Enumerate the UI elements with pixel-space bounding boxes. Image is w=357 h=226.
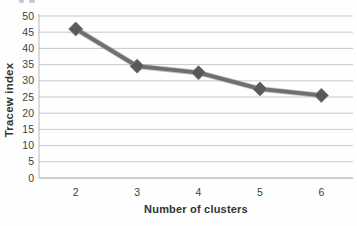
y-tick-label: 25 xyxy=(22,91,34,103)
y-axis-title: Tracew index xyxy=(3,55,15,145)
y-tick-label: 45 xyxy=(22,26,34,38)
data-point-marker xyxy=(192,66,206,80)
y-tick-label: 35 xyxy=(22,58,34,70)
x-tick-label: 4 xyxy=(196,186,202,198)
y-tick-label: 10 xyxy=(22,139,34,151)
chart-figure: 0510152025303540455023456 Tracew index N… xyxy=(0,0,357,226)
y-tick-label: 50 xyxy=(22,10,34,22)
y-tick-label: 30 xyxy=(22,74,34,86)
series-line xyxy=(76,29,322,95)
x-tick-label: 2 xyxy=(73,186,79,198)
data-point-marker xyxy=(314,88,328,102)
y-tick-label: 5 xyxy=(28,155,34,167)
x-tick-label: 3 xyxy=(134,186,140,198)
y-tick-label: 40 xyxy=(22,42,34,54)
x-axis-title: Number of clusters xyxy=(39,203,353,215)
y-tick-label: 0 xyxy=(28,172,34,184)
x-tick-label: 6 xyxy=(318,186,324,198)
y-tick-label: 20 xyxy=(22,107,34,119)
series-line-edge xyxy=(76,29,322,95)
y-tick-label: 15 xyxy=(22,123,34,135)
data-point-marker xyxy=(253,82,267,96)
x-tick-label: 5 xyxy=(257,186,263,198)
line-chart: 0510152025303540455023456 xyxy=(0,0,357,226)
